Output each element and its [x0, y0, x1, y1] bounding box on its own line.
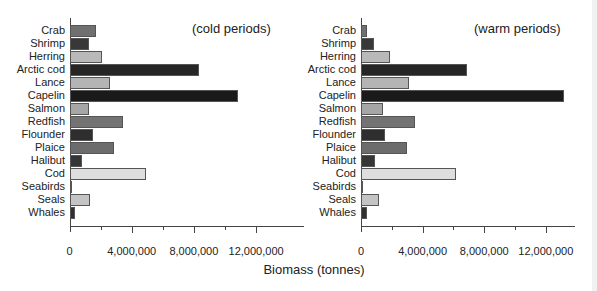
bar-redfish [361, 116, 415, 128]
x-tick-label: 12,000,000 [518, 245, 573, 257]
category-label: Shrimp [30, 37, 65, 50]
bar-lance [361, 77, 409, 89]
bar-crab [361, 25, 367, 37]
category-label: Capelin [28, 89, 65, 102]
bar-capelin [361, 90, 564, 102]
bar-herring [361, 51, 390, 63]
category-label: Crab [332, 24, 356, 37]
category-label: Herring [320, 50, 356, 63]
category-label: Seals [37, 193, 65, 206]
bar-cod [361, 168, 456, 180]
category-label: Capelin [319, 89, 356, 102]
category-label: Lance [35, 76, 65, 89]
category-label: Redfish [28, 115, 65, 128]
category-label: Arctic cod [308, 63, 356, 76]
category-label: Whales [28, 206, 65, 219]
category-label: Crab [41, 24, 65, 37]
bar-seals [361, 194, 379, 206]
category-label: Salmon [319, 102, 356, 115]
category-label: Flounder [313, 128, 356, 141]
category-label: Plaice [35, 141, 65, 154]
category-label: Halibut [31, 154, 65, 167]
x-axis-tick [423, 226, 424, 233]
x-axis-tick [515, 226, 516, 230]
x-axis-title: Biomass (tonnes) [263, 262, 364, 277]
x-tick-label: 8,000,000 [460, 245, 509, 257]
chart-warm-periods: (warm periods) 04,000,0008,000,00012,000… [0, 0, 597, 291]
category-label: Cod [336, 167, 356, 180]
x-tick-label: 4,000,000 [398, 245, 447, 257]
chart-title: (warm periods) [474, 21, 561, 36]
category-label: Plaice [326, 141, 356, 154]
x-axis-tick [392, 226, 393, 230]
bar-flounder [361, 129, 385, 141]
category-label: Flounder [22, 128, 65, 141]
category-label: Herring [29, 50, 65, 63]
category-label: Lance [326, 76, 356, 89]
category-label: Cod [45, 167, 65, 180]
category-label: Shrimp [321, 37, 356, 50]
category-label: Seals [328, 193, 356, 206]
bar-whales [361, 207, 367, 219]
category-label: Redfish [319, 115, 356, 128]
x-tick-label: 0 [358, 245, 364, 257]
x-axis-tick [484, 226, 485, 233]
category-label: Seabirds [22, 180, 65, 193]
bar-arctic-cod [361, 64, 467, 76]
category-label: Arctic cod [17, 63, 65, 76]
category-label: Seabirds [313, 180, 356, 193]
bar-seabirds [361, 181, 363, 193]
x-axis-tick [546, 226, 547, 233]
bar-salmon [361, 103, 383, 115]
bar-halibut [361, 155, 375, 167]
category-label: Halibut [322, 154, 356, 167]
x-axis-line [361, 226, 575, 227]
bar-plaice [361, 142, 407, 154]
bar-shrimp [361, 38, 374, 50]
category-label: Salmon [28, 102, 65, 115]
x-axis-tick [453, 226, 454, 230]
category-label: Whales [319, 206, 356, 219]
